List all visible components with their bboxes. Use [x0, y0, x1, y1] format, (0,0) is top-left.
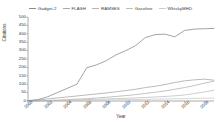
- legend-item[interactable]: WhiskyMHD: [159, 6, 193, 11]
- legend-item[interactable]: FLASH: [63, 6, 86, 11]
- chart-legend: Gadget-2FLASHRAMSESGasolineWhiskyMHD: [0, 3, 221, 14]
- y-axis-tick-label: 50: [2, 90, 26, 95]
- y-axis-tick-label: 150: [2, 74, 26, 79]
- legend-swatch-icon: [159, 8, 166, 9]
- legend-item-label: FLASH: [72, 6, 86, 11]
- plot-area: [28, 17, 214, 101]
- y-axis-tick-label: 100: [2, 82, 26, 87]
- legend-item[interactable]: RAMSES: [92, 6, 120, 11]
- legend-item-label: WhiskyMHD: [168, 6, 193, 11]
- y-axis-tick-label: 200: [2, 65, 26, 70]
- legend-swatch-icon: [92, 8, 99, 9]
- legend-item[interactable]: Gadget-2: [29, 6, 57, 11]
- legend-item-label: RAMSES: [101, 6, 120, 11]
- legend-item-label: Gasoline: [135, 6, 153, 11]
- y-axis-tick-label: 250: [2, 57, 26, 62]
- legend-item-label: Gadget-2: [38, 6, 57, 11]
- x-axis-title: Year: [28, 114, 214, 119]
- legend-swatch-icon: [29, 8, 36, 9]
- legend-swatch-icon: [63, 8, 70, 9]
- plot-svg: [28, 17, 214, 101]
- series-line: [28, 28, 214, 100]
- y-axis-tick-label: 0: [2, 99, 26, 104]
- citations-line-chart: Gadget-2FLASHRAMSESGasolineWhiskyMHD 050…: [0, 0, 221, 125]
- y-axis-title: Citations: [2, 13, 7, 53]
- x-axis-tick-labels: 2000200220042006200820102012201420162018: [28, 102, 214, 113]
- legend-swatch-icon: [126, 8, 133, 9]
- legend-item[interactable]: Gasoline: [126, 6, 153, 11]
